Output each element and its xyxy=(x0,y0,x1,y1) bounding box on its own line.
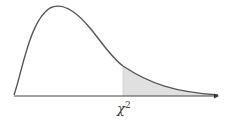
density-curve xyxy=(14,6,218,95)
shaded-tail-region xyxy=(123,66,218,96)
superscript-two: 2 xyxy=(125,100,131,110)
critical-value-label: χ2 xyxy=(117,100,131,116)
chi-symbol: χ xyxy=(117,101,125,116)
chi-square-diagram xyxy=(0,0,231,122)
